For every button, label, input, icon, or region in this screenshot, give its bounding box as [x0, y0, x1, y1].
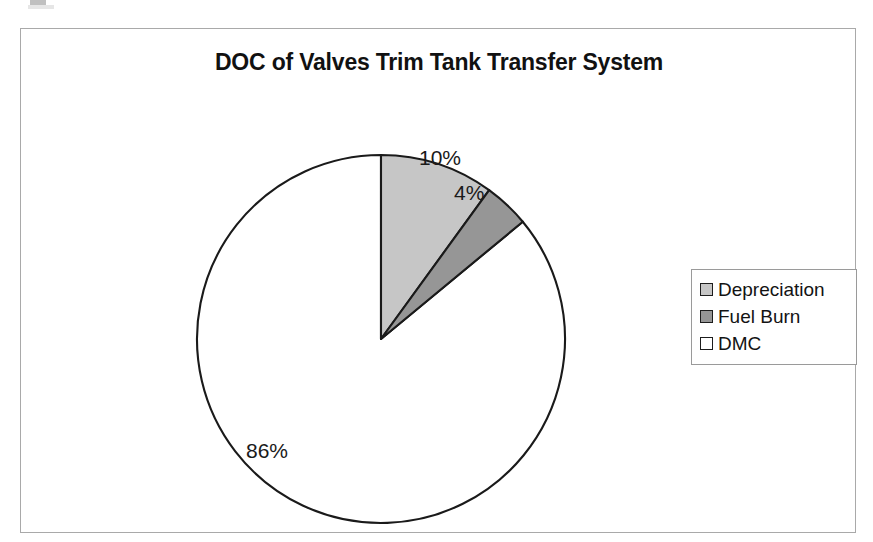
pie-data-label-depreciation: 10%	[419, 146, 461, 170]
legend-swatch-fuel-burn	[700, 310, 713, 323]
pie-data-label-dmc: 86%	[246, 439, 288, 463]
legend-swatch-depreciation	[700, 283, 713, 296]
legend-label-dmc: DMC	[718, 334, 761, 353]
scan-artifact-smudge	[28, 5, 54, 9]
legend-item-depreciation[interactable]: Depreciation	[700, 276, 850, 303]
legend-label-fuel-burn: Fuel Burn	[718, 307, 800, 326]
pie-data-label-fuel-burn: 4%	[454, 181, 484, 205]
chart-frame: DOC of Valves Trim Tank Transfer System …	[20, 28, 856, 533]
pie-plot-area: 10% 4% 86% Depreciation Fuel Burn DMC	[21, 29, 857, 534]
page-canvas: DOC of Valves Trim Tank Transfer System …	[0, 0, 873, 542]
legend-swatch-dmc	[700, 337, 713, 350]
pie-chart	[191, 149, 571, 529]
chart-legend: Depreciation Fuel Burn DMC	[691, 269, 857, 365]
legend-item-fuel-burn[interactable]: Fuel Burn	[700, 303, 850, 330]
legend-label-depreciation: Depreciation	[718, 280, 825, 299]
legend-item-dmc[interactable]: DMC	[700, 330, 850, 357]
